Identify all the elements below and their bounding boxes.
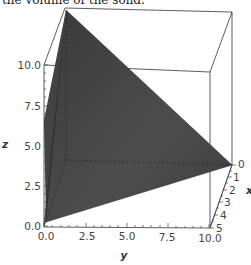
y-tick-2.5: 2.5 [79, 230, 96, 242]
x-tick-3: 3 [224, 196, 231, 208]
z-tick-5: 5.0 [24, 140, 41, 152]
z-tick-2.5: 2.5 [24, 180, 41, 192]
x-tick-2: 2 [229, 184, 236, 196]
z-tick-10: 10.0 [18, 59, 41, 71]
x-tick-0: 0 [238, 158, 245, 170]
y-tick-5: 5.0 [119, 230, 136, 242]
x-tick-4: 4 [220, 209, 227, 221]
y-tick-0: 0.0 [38, 230, 55, 242]
solid-tetrahedron [44, 10, 232, 225]
z-axis-label: z [1, 138, 9, 150]
x-tick-1: 1 [233, 171, 240, 183]
y-tick-7.5: 7.5 [159, 231, 176, 243]
x-axis-label: x [245, 184, 251, 196]
plot-3d: 10.0 7.5 5.0 2.5 0.0 z 0.0 2.5 5.0 7.5 1… [0, 0, 251, 265]
x-tick-5: 5 [216, 222, 223, 234]
y-axis-label: y [121, 249, 129, 261]
z-tick-7.5: 7.5 [24, 100, 41, 112]
